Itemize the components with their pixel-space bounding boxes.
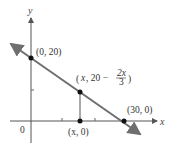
graph-canvas: y x 0 (0, 20) (30, 0) (x, 0) ( x , 20 − …: [0, 0, 177, 149]
x-axis-label: x: [159, 116, 165, 127]
label-x-intercept: (30, 0): [127, 105, 152, 116]
point-x-intercept: [122, 119, 127, 124]
origin-label: 0: [20, 125, 25, 135]
label-mid: , 20 −: [86, 73, 108, 83]
graph-line: [11, 44, 31, 58]
frac-denominator: 3: [119, 77, 124, 87]
paren-close: ): [128, 74, 131, 85]
y-axis-label: y: [27, 5, 33, 16]
paren-open: (: [76, 74, 79, 85]
point-on-line: [78, 90, 83, 95]
label-foot: (x, 0): [68, 127, 89, 138]
label-y-intercept: (0, 20): [36, 47, 61, 58]
label-on-line: ( x , 20 − 2x 3 ): [76, 68, 131, 87]
point-y-intercept: [29, 56, 34, 61]
point-foot: [78, 119, 83, 124]
